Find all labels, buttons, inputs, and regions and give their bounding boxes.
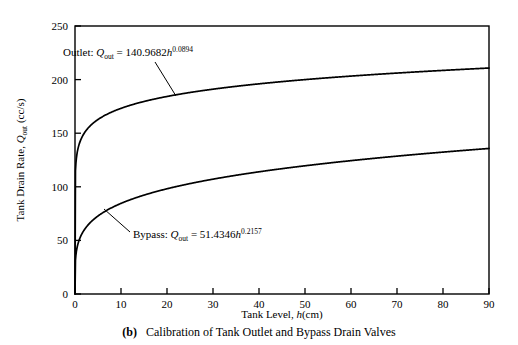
y-tick-label: 0 [63, 288, 69, 300]
bypass-label-var: Q [171, 228, 179, 240]
outlet-label-var: Q [96, 46, 104, 58]
plot-frame [75, 26, 489, 294]
y-tick-label: 150 [52, 127, 69, 139]
x-axis-title-unit: (cm) [302, 308, 323, 321]
figure-container: 050100150200250 0102030405060708090 Outl… [0, 0, 518, 345]
outlet-label-eq: = 140.9682 [114, 46, 167, 58]
outlet-label-sup: 0.0894 [172, 45, 193, 54]
x-axis-title: Tank Level, h(cm) [241, 308, 323, 321]
bypass-label-lead: Bypass: [133, 228, 171, 240]
chart-canvas: 050100150200250 0102030405060708090 Outl… [0, 0, 518, 345]
x-tick-label: 80 [438, 298, 450, 310]
y-axis-title-unit: (cc/s) [14, 98, 27, 126]
x-tick-label: 10 [116, 298, 128, 310]
caption-text: Calibration of Tank Outlet and Bypass Dr… [146, 325, 396, 339]
bypass-label-eq: = 51.4346 [188, 228, 236, 240]
y-axis-title: Tank Drain Rate, Qout (cc/s) [14, 98, 29, 221]
y-tick-label: 50 [57, 234, 69, 246]
outlet-label-lead: Outlet: [63, 46, 96, 58]
y-axis-title-lead: Tank Drain Rate, [14, 143, 26, 221]
caption-label: (b) [122, 325, 137, 339]
y-axis-tick-labels: 050100150200250 [52, 20, 69, 300]
x-tick-label: 90 [484, 298, 496, 310]
x-axis-title-lead: Tank Level, [241, 308, 296, 320]
x-tick-label: 30 [208, 298, 220, 310]
bypass-label-sup: 0.2157 [241, 227, 262, 236]
y-axis-title-var: Q [14, 135, 26, 143]
y-tick-label: 100 [52, 181, 69, 193]
y-tick-label: 250 [52, 20, 69, 32]
y-tick-label: 200 [52, 74, 69, 86]
x-tick-label: 60 [346, 298, 358, 310]
x-tick-label: 70 [392, 298, 404, 310]
x-tick-label: 0 [72, 298, 78, 310]
figure-caption: (b)Calibration of Tank Outlet and Bypass… [0, 325, 518, 340]
x-tick-label: 20 [162, 298, 174, 310]
